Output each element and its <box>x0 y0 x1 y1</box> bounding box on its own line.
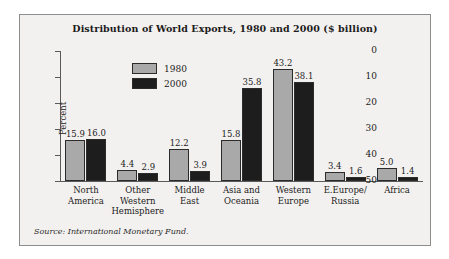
bar-value-label: 43.2 <box>269 58 297 68</box>
y-tick-mark <box>55 155 60 156</box>
legend-label-1980: 1980 <box>164 64 187 74</box>
legend-label-2000: 2000 <box>164 79 187 89</box>
legend-item-2000: 2000 <box>132 78 187 89</box>
chart-figure: Distribution of World Exports, 1980 and … <box>19 14 431 246</box>
bar-value-label: 35.8 <box>238 77 266 87</box>
plot-area: Percent 50403020100 NorthAmerica15.916.0… <box>60 51 423 181</box>
bar-group: 5.01.4 <box>377 51 418 181</box>
bar-value-label: 16.0 <box>82 128 110 138</box>
bar-value-label: 38.1 <box>290 71 318 81</box>
bar-1980 <box>65 140 85 181</box>
source-note: Source: International Monetary Fund. <box>34 227 189 236</box>
bar-2000 <box>242 88 262 181</box>
chart-title: Distribution of World Exports, 1980 and … <box>20 23 430 34</box>
chart-legend: 1980 2000 <box>132 63 187 93</box>
x-tick-label-line: Russia <box>311 196 379 207</box>
bar-2000 <box>346 177 366 181</box>
x-tick-label-line: Africa <box>363 185 431 196</box>
bar-group: 3.41.6 <box>325 51 366 181</box>
bar-2000 <box>398 177 418 181</box>
bar-2000 <box>294 82 314 181</box>
legend-swatch-1980 <box>132 63 157 74</box>
legend-swatch-2000 <box>132 78 157 89</box>
bar-group: 43.238.1 <box>273 51 314 181</box>
bar-value-label: 1.6 <box>342 166 370 176</box>
bar-value-label: 3.9 <box>186 160 214 170</box>
bar-group: 15.916.0 <box>65 51 106 181</box>
bar-2000 <box>86 139 106 181</box>
bar-value-label: 12.2 <box>165 138 193 148</box>
bar-group: 15.835.8 <box>221 51 262 181</box>
bar-value-label: 15.8 <box>217 129 245 139</box>
y-tick-mark <box>55 129 60 130</box>
bar-1980 <box>273 69 293 181</box>
bar-2000 <box>138 173 158 181</box>
y-tick-mark <box>55 181 60 182</box>
y-tick-mark <box>55 77 60 78</box>
bar-2000 <box>190 171 210 181</box>
bar-value-label: 2.9 <box>134 162 162 172</box>
y-tick-mark <box>55 103 60 104</box>
bar-value-label: 1.4 <box>394 166 422 176</box>
y-tick-mark <box>55 51 60 52</box>
x-tick-label: Africa <box>363 185 431 196</box>
bar-1980 <box>221 140 241 181</box>
legend-item-1980: 1980 <box>132 63 187 74</box>
x-tick-label-line: Hemisphere <box>104 206 172 217</box>
